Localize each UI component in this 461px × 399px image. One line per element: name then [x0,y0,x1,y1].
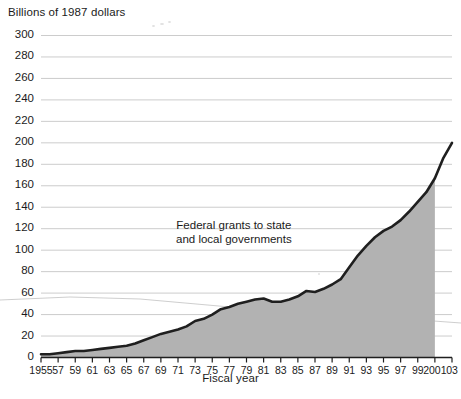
annotation-line-1: Federal grants to state [176,219,292,233]
y-tick-label: 0 [6,350,34,362]
y-tick-label: 160 [6,178,34,190]
y-tick-label: 180 [6,157,34,169]
y-tick-label: 300 [6,28,34,40]
series-annotation: Federal grants to state and local govern… [176,219,292,246]
scan-speck [152,25,155,27]
y-tick-label: 220 [6,114,34,126]
chart-plot-area [0,0,461,399]
y-tick-label: 200 [6,135,34,147]
chart-figure: Billions of 1987 dollars 300280260240220… [0,0,461,399]
y-tick-label: 40 [6,307,34,319]
y-tick-label: 120 [6,221,34,233]
scan-speck [318,273,320,275]
scan-speck [168,21,171,23]
y-tick-label: 140 [6,200,34,212]
y-tick-label: 20 [6,329,34,341]
y-tick-label: 80 [6,264,34,276]
y-tick-label: 260 [6,71,34,83]
y-tick-label: 240 [6,92,34,104]
y-tick-label: 100 [6,243,34,255]
scan-speck [160,23,164,25]
y-tick-label: 280 [6,49,34,61]
x-axis-title: Fiscal year [0,372,461,384]
y-tick-label: 60 [6,286,34,298]
annotation-line-2: and local governments [176,233,292,247]
